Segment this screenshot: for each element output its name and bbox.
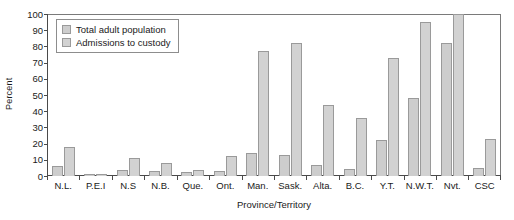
bar-group xyxy=(242,14,274,176)
y-axis-title: Percent xyxy=(4,96,14,110)
x-axis-tick-label: Sask. xyxy=(274,180,306,191)
bar-group xyxy=(371,14,403,176)
bar xyxy=(485,139,496,176)
x-axis-tick-labels: N.L.P.E.IN.SN.B.Que.Ont.Man.Sask.Alta.B.… xyxy=(47,180,501,191)
bar xyxy=(258,51,269,176)
bar xyxy=(408,98,419,176)
y-axis-tick-label: 0 xyxy=(21,172,43,181)
bar xyxy=(214,171,225,176)
bar xyxy=(388,58,399,176)
bar xyxy=(279,155,290,176)
y-axis-tick-label: 10 xyxy=(21,155,43,164)
x-axis-tick-label: N.L. xyxy=(47,180,79,191)
x-axis-tick-label: N.B. xyxy=(144,180,176,191)
y-axis-tick-label: 100 xyxy=(21,10,43,19)
bar xyxy=(246,153,257,176)
y-axis-tick-label: 90 xyxy=(21,26,43,35)
x-axis-tick-label: N.W.T. xyxy=(404,180,436,191)
bar-group xyxy=(209,14,241,176)
bar-group xyxy=(274,14,306,176)
bar-chart: Percent 0102030405060708090100 N.L.P.E.I… xyxy=(0,0,514,220)
bar xyxy=(117,170,128,176)
legend-label: Total adult population xyxy=(76,24,166,35)
x-axis-title: Province/Territory xyxy=(47,199,501,210)
bar xyxy=(356,118,367,176)
bar xyxy=(84,174,95,176)
bar xyxy=(149,171,160,176)
y-axis-tick-label: 70 xyxy=(21,58,43,67)
y-axis-tick-label: 40 xyxy=(21,107,43,116)
x-axis-tick-label: Alta. xyxy=(306,180,338,191)
bar xyxy=(344,169,355,176)
y-axis-tick-label: 30 xyxy=(21,123,43,132)
y-axis-tick-label: 50 xyxy=(21,91,43,100)
bar xyxy=(96,174,107,176)
bar-group xyxy=(177,14,209,176)
bar xyxy=(226,156,237,176)
bar xyxy=(129,158,140,176)
bar xyxy=(323,105,334,176)
bar xyxy=(441,43,452,176)
y-axis-tick-label: 60 xyxy=(21,74,43,83)
bar xyxy=(64,147,75,176)
bar-group xyxy=(306,14,338,176)
bar xyxy=(453,14,464,176)
x-axis-tick-label: Nvt. xyxy=(436,180,468,191)
bar-group xyxy=(436,14,468,176)
bar-group xyxy=(404,14,436,176)
legend-label: Admissions to custody xyxy=(76,37,171,48)
x-axis-tick-label: Man. xyxy=(242,180,274,191)
bar xyxy=(193,170,204,176)
bar-group xyxy=(339,14,371,176)
bar xyxy=(161,163,172,176)
x-axis-tick-label: Ont. xyxy=(209,180,241,191)
bar xyxy=(311,165,322,176)
x-axis-tick-label: Y.T. xyxy=(371,180,403,191)
chart-legend: Total adult populationAdmissions to cust… xyxy=(56,19,179,53)
legend-swatch-icon xyxy=(62,38,71,47)
bar xyxy=(52,166,63,176)
bar xyxy=(473,168,484,176)
bar xyxy=(291,43,302,176)
bar-group xyxy=(468,14,500,176)
x-axis-tick-label: P.E.I xyxy=(79,180,111,191)
bar xyxy=(376,140,387,176)
legend-item: Admissions to custody xyxy=(62,36,171,49)
x-axis-tick-label: CSC xyxy=(468,180,500,191)
x-axis-tick-label: B.C. xyxy=(339,180,371,191)
bar xyxy=(181,172,192,176)
legend-item: Total adult population xyxy=(62,23,171,36)
x-axis-tick-label: N.S xyxy=(112,180,144,191)
legend-swatch-icon xyxy=(62,25,71,34)
x-axis-tick-label: Que. xyxy=(177,180,209,191)
y-axis-tick-label: 20 xyxy=(21,139,43,148)
y-axis-tick-label: 80 xyxy=(21,42,43,51)
bar xyxy=(420,22,431,176)
